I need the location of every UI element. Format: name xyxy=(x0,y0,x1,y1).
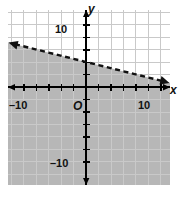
y-axis-label-positive-10: 10 xyxy=(55,24,67,35)
origin-label: O xyxy=(73,100,82,112)
plot-svg xyxy=(8,10,170,185)
y-axis-name-label: y xyxy=(88,3,95,15)
x-axis-label-negative-10: –10 xyxy=(9,100,27,111)
graph-figure: –10 10 10 –10 O x y xyxy=(0,0,179,197)
coordinate-plane xyxy=(8,10,170,185)
x-axis-name-label: x xyxy=(170,84,177,96)
y-axis-label-negative-10: –10 xyxy=(50,158,68,169)
x-axis-label-positive-10: 10 xyxy=(138,100,150,111)
